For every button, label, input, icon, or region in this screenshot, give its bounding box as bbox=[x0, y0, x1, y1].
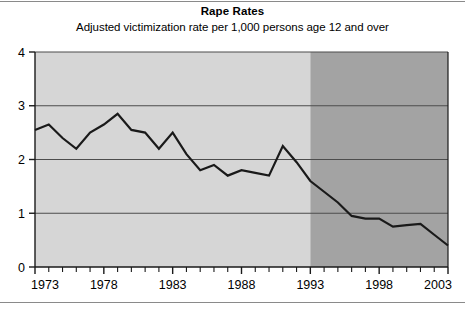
ytick-label-4: 4 bbox=[18, 46, 25, 60]
xtick-label-1978: 1978 bbox=[90, 278, 118, 292]
xtick-label-1973: 1973 bbox=[31, 278, 59, 292]
xtick-label-1998: 1998 bbox=[365, 278, 393, 292]
plot-area: 01234 1973197819831988199319982003 bbox=[0, 0, 465, 315]
ytick-label-3: 3 bbox=[18, 99, 25, 113]
ytick-label-2: 2 bbox=[18, 153, 25, 167]
x-axis-labels: 1973197819831988199319982003 bbox=[31, 278, 452, 292]
xtick-label-2003: 2003 bbox=[424, 278, 452, 292]
y-axis-labels: 01234 bbox=[18, 46, 25, 275]
ytick-label-1: 1 bbox=[18, 207, 25, 221]
footer-divider bbox=[0, 302, 465, 303]
xtick-label-1988: 1988 bbox=[228, 278, 256, 292]
chart-figure: Rape Rates Adjusted victimization rate p… bbox=[0, 0, 465, 315]
xtick-label-1993: 1993 bbox=[296, 278, 324, 292]
ytick-label-0: 0 bbox=[18, 261, 25, 275]
xtick-label-1983: 1983 bbox=[159, 278, 187, 292]
